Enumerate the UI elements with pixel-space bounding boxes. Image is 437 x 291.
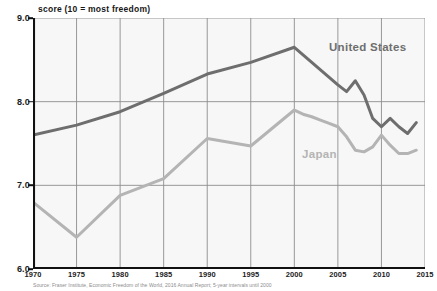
y-tick-label: 7.0	[4, 181, 30, 190]
x-tick-label: 1995	[231, 271, 271, 279]
series-label-united-states: United States	[329, 41, 406, 53]
x-tick-label: 1990	[187, 271, 227, 279]
x-tick-label: 2005	[318, 271, 358, 279]
chart-figure: score (10 = most freedom) 6.07.08.09.0 1…	[0, 0, 437, 291]
series-label-japan: Japan	[302, 148, 337, 160]
y-axis: 6.07.08.09.0	[0, 0, 30, 291]
x-tick-label: 2000	[274, 271, 314, 279]
y-tick-label: 8.0	[4, 97, 30, 106]
plot-area	[33, 18, 425, 269]
source-note: Source: Fraser Institute, Economic Freed…	[33, 283, 272, 288]
x-tick-label: 2010	[361, 271, 401, 279]
chart-plot-svg	[33, 18, 425, 269]
x-tick-label: 1980	[100, 271, 140, 279]
chart-axis-caption: score (10 = most freedom)	[38, 4, 150, 14]
x-tick-label: 2015	[405, 271, 437, 279]
x-tick-label: 1975	[57, 271, 97, 279]
x-tick-label: 1985	[144, 271, 184, 279]
x-tick-label: 1970	[13, 271, 53, 279]
y-tick-label: 9.0	[4, 14, 30, 23]
